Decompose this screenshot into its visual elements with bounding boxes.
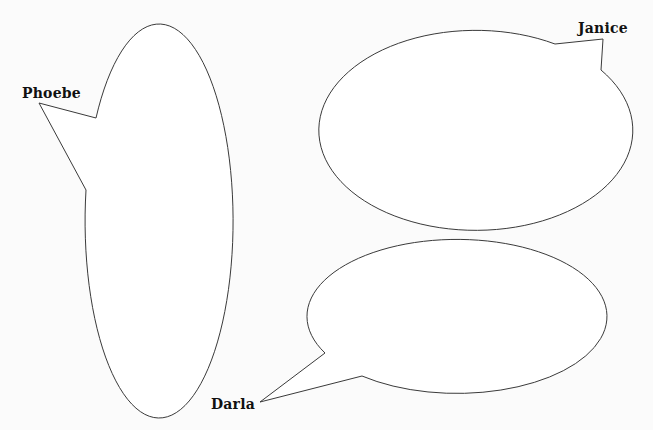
- speech-bubble-canvas: [0, 0, 653, 430]
- speaker-label-phoebe: Phoebe: [22, 86, 81, 100]
- speech-bubble-phoebe[interactable]: [39, 24, 233, 418]
- speaker-label-janice: Janice: [578, 21, 628, 35]
- speech-bubble-janice[interactable]: [319, 30, 633, 230]
- speaker-label-darla: Darla: [211, 397, 255, 411]
- speech-bubble-darla[interactable]: [260, 239, 607, 402]
